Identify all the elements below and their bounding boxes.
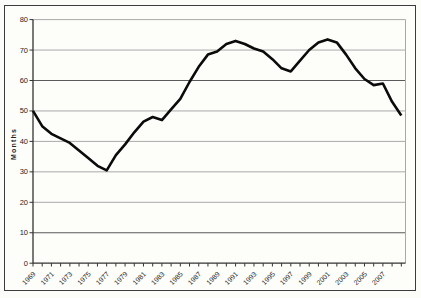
y-tick-label: 20 — [20, 198, 28, 207]
x-tick-label: 1987 — [186, 270, 202, 286]
x-tick-label: 1991 — [223, 270, 239, 286]
y-axis-title: Months — [10, 128, 17, 160]
x-tick-label: 2007 — [371, 270, 387, 286]
x-tick-label: 1977 — [94, 270, 110, 286]
y-tick-label: 10 — [20, 228, 28, 237]
x-tick-label: 2001 — [315, 270, 331, 286]
x-tick-label: 1995 — [260, 270, 276, 286]
x-tick-label: 1981 — [131, 270, 147, 286]
x-tick-label: 1997 — [279, 270, 295, 286]
y-tick-label: 60 — [20, 76, 28, 85]
y-tick-label: 70 — [20, 46, 28, 55]
y-tick-label: 40 — [20, 137, 28, 146]
x-tick-label: 1989 — [205, 270, 221, 286]
x-tick-label: 1969 — [21, 270, 37, 286]
x-tick-label: 1975 — [76, 270, 92, 286]
y-tick-label: 50 — [20, 106, 28, 115]
chart-canvas: Months 010203040506070801969197119731975… — [0, 0, 421, 298]
x-tick-label: 1971 — [39, 270, 55, 286]
y-tick-label: 30 — [20, 167, 28, 176]
y-tick-label: 0 — [24, 259, 28, 268]
x-tick-label: 1999 — [297, 270, 313, 286]
y-tick-label: 80 — [20, 15, 28, 24]
x-tick-label: 2003 — [334, 270, 350, 286]
x-tick-label: 2005 — [352, 270, 368, 286]
x-tick-label: 1979 — [113, 270, 129, 286]
x-tick-label: 1983 — [150, 270, 166, 286]
x-tick-label: 1985 — [168, 270, 184, 286]
x-tick-label: 1993 — [242, 270, 258, 286]
line-chart: Months 010203040506070801969197119731975… — [0, 0, 421, 298]
x-tick-label: 1973 — [58, 270, 74, 286]
data-line-series — [33, 39, 401, 170]
